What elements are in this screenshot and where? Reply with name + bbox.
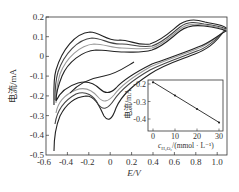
inset-y-tick-labels: -0.2 -0.3 -0.4 xyxy=(133,80,146,124)
inset-x-axis-label: cH₂O₂/(mmol · L⁻¹) xyxy=(158,141,214,151)
inset-x-tick: 30 xyxy=(215,132,223,141)
inset-y-axis-label: 电流/mA xyxy=(123,89,133,119)
inset-xlabel-unit: /(mmol · L⁻¹) xyxy=(172,141,214,150)
main-x-axis-label: E/V xyxy=(126,168,142,178)
main-y-ticks xyxy=(46,17,49,135)
inset-point xyxy=(174,94,176,96)
inset-x-tick-labels: 0 10 20 30 xyxy=(151,132,223,141)
y-tick: -0.2 xyxy=(30,91,44,101)
x-tick: -0.4 xyxy=(59,157,74,167)
inset-y-tick: -0.4 xyxy=(133,115,146,124)
y-tick: -0.4 xyxy=(30,130,45,140)
inset-point xyxy=(218,121,220,123)
y-tick: -0.3 xyxy=(30,111,45,121)
y-tick: 0.2 xyxy=(33,12,44,22)
inset-x-tick: 10 xyxy=(171,132,179,141)
x-tick: 1.0 xyxy=(212,157,224,167)
x-tick: 0 xyxy=(108,157,113,167)
x-tick: 0.8 xyxy=(190,157,202,167)
x-tick: -0.2 xyxy=(80,157,94,167)
main-y-axis-label: 电流/mA xyxy=(7,69,18,104)
inset-x-tick: 0 xyxy=(151,132,155,141)
cv-chart: 0.2 0.1 0 -0.1 -0.2 -0.3 -0.4 -0.5 -0.6 … xyxy=(0,0,239,192)
x-tick: 0.6 xyxy=(169,157,181,167)
inset-plot-frame xyxy=(148,80,223,131)
y-tick: -0.1 xyxy=(30,71,44,81)
y-tick: 0.1 xyxy=(33,32,44,42)
x-tick: 0.4 xyxy=(147,157,159,167)
x-tick: 0.2 xyxy=(126,157,137,167)
inset-x-tick: 20 xyxy=(193,132,201,141)
inset-xlabel-sub: H₂O₂ xyxy=(161,146,172,151)
inset-y-tick: -0.3 xyxy=(133,98,146,107)
y-tick: 0 xyxy=(40,51,45,61)
inset-y-tick: -0.2 xyxy=(133,80,146,89)
main-x-tick-labels: -0.6 -0.4 -0.2 0 0.2 0.4 0.6 0.8 1.0 xyxy=(37,157,223,167)
inset-point xyxy=(152,81,154,83)
x-tick: -0.6 xyxy=(37,157,52,167)
main-y-tick-labels: 0.2 0.1 0 -0.1 -0.2 -0.3 -0.4 -0.5 xyxy=(30,12,45,160)
inset-point xyxy=(196,108,198,110)
main-x-ticks xyxy=(67,152,217,155)
